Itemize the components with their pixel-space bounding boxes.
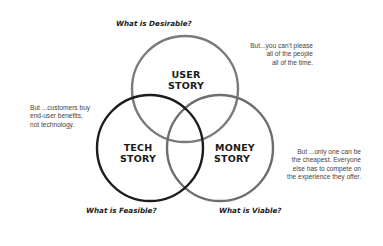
tech-story-label-line2: STORY	[120, 153, 156, 164]
user-note-line: all of the people	[250, 50, 313, 58]
money-story-label-line2: STORY	[214, 153, 250, 164]
money-story-label-line1: MONEY	[215, 142, 255, 153]
money-note-line: the experience they offer.	[287, 173, 361, 181]
viable-question: What is Viable?	[219, 206, 281, 215]
user-story-label-line2: STORY	[168, 80, 204, 91]
money-note-line: the cheapest. Everyone	[287, 156, 361, 164]
tech-note-line: But ...customers buy	[30, 104, 90, 112]
feasible-question: What is Feasible?	[86, 206, 157, 215]
user-note-line: all of the time.	[250, 59, 313, 67]
desirable-question: What is Desirable?	[116, 19, 192, 28]
user-story-note: But...you can't please all of the people…	[250, 42, 313, 67]
tech-story-note: But ...customers buy end-user benefits, …	[30, 104, 90, 129]
money-note-line: else has to compete on	[287, 165, 361, 173]
tech-note-line: end-user benefits,	[30, 112, 90, 120]
user-note-line: But...you can't please	[250, 42, 313, 50]
user-story-label-line1: USER	[171, 69, 201, 80]
tech-note-line: not technology.	[30, 121, 90, 129]
money-story-note: But ...only one can be the cheapest. Eve…	[287, 148, 361, 182]
tech-story-label-line1: TECH	[124, 142, 153, 153]
money-note-line: But ...only one can be	[287, 148, 361, 156]
